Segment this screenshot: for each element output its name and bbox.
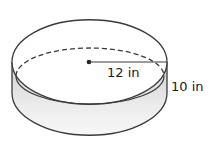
cylinder-diagram: 12 in 10 in xyxy=(0,0,211,142)
radius-label: 12 in xyxy=(107,65,140,80)
height-label: 10 in xyxy=(171,79,204,94)
